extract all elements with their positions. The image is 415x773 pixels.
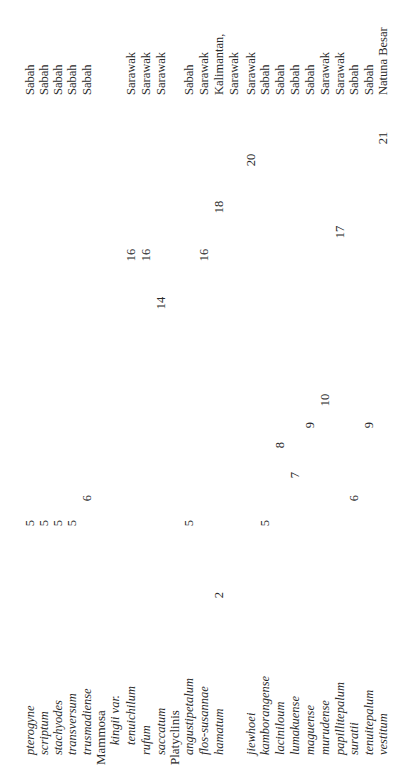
table-row: pterogyne5Sabah	[23, 0, 37, 773]
value-cell: 10	[318, 388, 332, 412]
value-cell: 5	[182, 511, 196, 535]
value-cell: 5	[65, 511, 79, 535]
value-cell: 16	[139, 243, 153, 267]
region-cell: Sarawak	[227, 52, 241, 95]
species-name: maguense	[303, 705, 317, 755]
table-row: hamatum218Kalimantan,	[212, 0, 226, 773]
region-cell: Sarawak	[333, 52, 347, 95]
table-row: suratii6Sabah	[347, 0, 361, 773]
table-row: maguense9Sabah	[303, 0, 317, 773]
value-cell: 6	[80, 486, 94, 510]
table-row: jiewhoei20Sarawak	[244, 0, 258, 773]
species-name: rufum	[139, 725, 153, 755]
region-cell: Sabah	[303, 64, 317, 95]
table-row: trusmadiense6Sabah	[80, 0, 94, 773]
species-name: transversum	[65, 693, 79, 755]
value-cell: 6	[347, 486, 361, 510]
value-cell: 5	[51, 511, 65, 535]
species-name: papillitepalum	[333, 682, 347, 755]
value-cell: 14	[154, 291, 168, 315]
table-row: rufum16Sarawak	[139, 0, 153, 773]
region-cell: Sarawak	[244, 52, 258, 95]
species-name: vestitum	[376, 713, 390, 755]
table-row: kamborangense5Sabah	[258, 0, 272, 773]
table-row: saccatum14Sarawak	[154, 0, 168, 773]
value-cell: 16	[124, 243, 138, 267]
value-cell: 17	[333, 220, 347, 244]
region-cell: Sabah	[288, 64, 302, 95]
region-cell: Sabah	[182, 64, 196, 95]
species-name: kamborangense	[258, 676, 272, 755]
region-cell: Sabah	[347, 64, 361, 95]
section-name: Mammosa	[94, 710, 108, 765]
region-cell: Sabah	[51, 64, 65, 95]
value-cell: 16	[197, 243, 211, 267]
value-cell: 20	[244, 148, 258, 172]
table-row: scriptum5Sabah	[37, 0, 51, 773]
table-row: tenuitepalum9Sabah	[362, 0, 376, 773]
table-row: laciniloum8Sabah	[273, 0, 287, 773]
region-cell: Sabah	[362, 64, 376, 95]
value-cell: 8	[273, 433, 287, 457]
table-row: flos-susannae16Sarawak	[197, 0, 211, 773]
value-cell: 5	[37, 511, 51, 535]
species-name: stachyodes	[51, 700, 65, 755]
species-name: saccatum	[154, 708, 168, 755]
table-row: angustipetalum5Sabah	[182, 0, 196, 773]
value-cell: 7	[288, 463, 302, 487]
region-cell: Sarawak	[197, 52, 211, 95]
species-name: jiewhoei	[244, 713, 258, 755]
species-name: lumakuense	[288, 696, 302, 755]
species-name: murudense	[318, 700, 332, 755]
species-name: hamatum	[212, 708, 226, 755]
region-cell: Sabah	[23, 64, 37, 95]
species-name: kingii var.	[108, 695, 122, 745]
value-cell: 5	[258, 511, 272, 535]
table-row: murudense10Sarawak	[318, 0, 332, 773]
table-row: tenuichilum16Sarawak	[124, 0, 138, 773]
species-name: laciniloum	[273, 702, 287, 755]
table-row: Platyclinis	[168, 0, 182, 773]
region-cell: Sarawak	[124, 52, 138, 95]
species-name: angustipetalum	[182, 678, 196, 755]
value-cell: 9	[362, 413, 376, 437]
region-cell: Sarawak	[139, 52, 153, 95]
species-name: flos-susannae	[197, 686, 211, 755]
region-cell: Sabah	[258, 64, 272, 95]
region-cell: Sarawak	[154, 52, 168, 95]
table-row: vestitum21Natuna Besar	[376, 0, 390, 773]
species-name: tenuichilum	[124, 686, 138, 745]
rotated-table-page: pterogyne5Sabahscriptum5Sabahstachyodes5…	[0, 0, 415, 773]
table-row: papillitepalum17Sarawak	[333, 0, 347, 773]
species-name: suratii	[347, 722, 361, 755]
value-cell: 5	[23, 511, 37, 535]
species-name: pterogyne	[23, 705, 37, 755]
section-name: Platyclinis	[168, 710, 182, 765]
species-name: trusmadiense	[80, 688, 94, 755]
table-row: transversum5Sabah	[65, 0, 79, 773]
table-row: stachyodes5Sabah	[51, 0, 65, 773]
region-cell: Sabah	[65, 64, 79, 95]
region-cell: Sabah	[80, 64, 94, 95]
value-cell: 2	[212, 583, 226, 607]
value-cell: 21	[376, 126, 390, 150]
table-row: kingii var.	[108, 0, 122, 773]
table-row: Sarawak	[227, 0, 241, 773]
table-row: Mammosa	[94, 0, 108, 773]
region-cell: Kalimantan,	[212, 34, 226, 95]
table-row: lumakuense7Sabah	[288, 0, 302, 773]
region-cell: Sabah	[273, 64, 287, 95]
species-name: tenuitepalum	[362, 690, 376, 755]
region-cell: Sabah	[37, 64, 51, 95]
region-cell: Sarawak	[318, 52, 332, 95]
species-name: scriptum	[37, 711, 51, 755]
value-cell: 18	[212, 195, 226, 219]
value-cell: 9	[303, 413, 317, 437]
region-cell: Natuna Besar	[376, 27, 390, 95]
